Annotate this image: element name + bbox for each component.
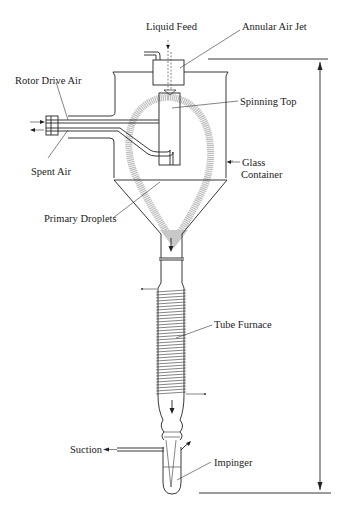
label-spent-air: Spent Air [31, 166, 71, 177]
label-glass: Glass [242, 157, 265, 168]
height-dimension [199, 59, 331, 493]
label-liquid-feed: Liquid Feed [146, 21, 198, 32]
impinger [103, 420, 191, 494]
label-impinger: Impinger [214, 457, 253, 468]
label-tube-furnace: Tube Furnace [214, 319, 272, 330]
apparatus-diagram: Liquid Feed Annular Air Jet Rotor Drive … [0, 0, 347, 514]
furnace-leads [141, 288, 206, 395]
label-primary-droplets: Primary Droplets [44, 213, 117, 224]
label-container: Container [241, 169, 283, 180]
leader-lines [48, 30, 240, 480]
label-rotor-drive-air: Rotor Drive Air [15, 75, 82, 86]
flow-arrows [169, 238, 175, 414]
annular-air-jet [144, 40, 184, 95]
tube-furnace-coil [156, 290, 186, 394]
rotor-drive-tubes [30, 116, 173, 165]
label-suction: Suction [70, 444, 103, 455]
spinning-top [159, 93, 180, 165]
glass-container [68, 72, 228, 258]
label-annular-air-jet: Annular Air Jet [242, 21, 307, 32]
label-spinning-top: Spinning Top [240, 96, 297, 107]
